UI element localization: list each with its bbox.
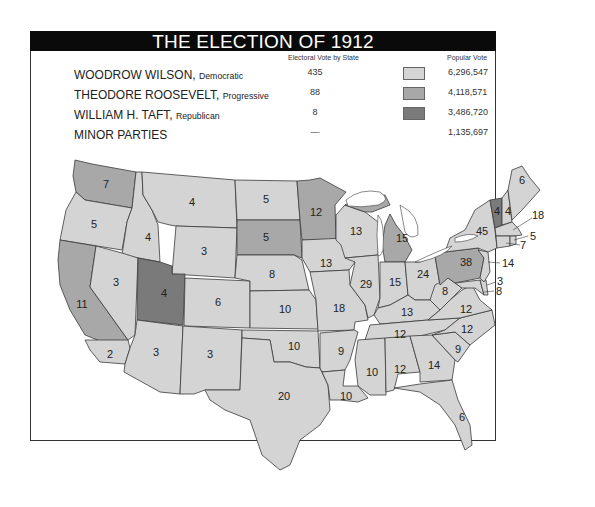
svg-text:4: 4 (161, 287, 167, 299)
svg-text:15: 15 (396, 232, 408, 244)
svg-text:11: 11 (76, 298, 87, 310)
svg-text:12: 12 (310, 206, 322, 218)
us-electoral-map: 7 5 11 2 4 3 4 3 4 6 3 3 5 5 8 10 10 20 … (0, 0, 595, 507)
svg-text:5: 5 (91, 218, 97, 230)
state-NY (445, 200, 497, 252)
svg-text:9: 9 (455, 343, 461, 355)
svg-text:3: 3 (153, 346, 159, 358)
svg-text:29: 29 (360, 278, 372, 290)
svg-text:15: 15 (389, 276, 401, 288)
svg-text:45: 45 (476, 225, 488, 237)
svg-text:8: 8 (269, 268, 275, 280)
state-CT (496, 236, 510, 248)
svg-text:6: 6 (215, 296, 221, 308)
svg-text:3: 3 (207, 348, 213, 360)
state-SD (237, 220, 302, 258)
svg-text:12: 12 (394, 363, 406, 375)
svg-text:24: 24 (417, 268, 429, 280)
svg-text:12: 12 (460, 303, 472, 315)
svg-text:10: 10 (279, 303, 291, 315)
svg-text:3: 3 (113, 276, 119, 288)
svg-text:6: 6 (459, 411, 465, 423)
svg-text:13: 13 (401, 306, 413, 318)
svg-text:5: 5 (530, 230, 536, 242)
svg-text:7: 7 (520, 239, 526, 251)
svg-text:18: 18 (333, 302, 345, 314)
svg-text:38: 38 (460, 256, 472, 268)
svg-text:10: 10 (288, 340, 300, 352)
svg-text:4: 4 (189, 196, 195, 208)
svg-text:4: 4 (145, 231, 151, 243)
svg-text:5: 5 (263, 193, 269, 205)
svg-text:2: 2 (107, 348, 113, 360)
svg-text:5: 5 (263, 231, 269, 243)
svg-text:7: 7 (103, 178, 109, 190)
svg-text:10: 10 (366, 366, 378, 378)
svg-text:10: 10 (340, 390, 352, 402)
svg-text:9: 9 (338, 345, 344, 357)
svg-text:8: 8 (496, 285, 502, 297)
svg-text:4: 4 (505, 205, 511, 217)
svg-text:12: 12 (461, 323, 473, 335)
svg-text:14: 14 (502, 257, 514, 269)
svg-text:4: 4 (494, 205, 500, 217)
state-NM (180, 326, 242, 394)
svg-text:13: 13 (320, 257, 332, 269)
svg-text:18: 18 (532, 209, 544, 221)
svg-text:20: 20 (278, 390, 290, 402)
svg-text:8: 8 (442, 285, 448, 297)
svg-text:12: 12 (394, 328, 406, 340)
svg-text:3: 3 (201, 245, 207, 257)
svg-text:13: 13 (350, 225, 362, 237)
svg-text:14: 14 (428, 359, 440, 371)
svg-text:6: 6 (519, 174, 525, 186)
